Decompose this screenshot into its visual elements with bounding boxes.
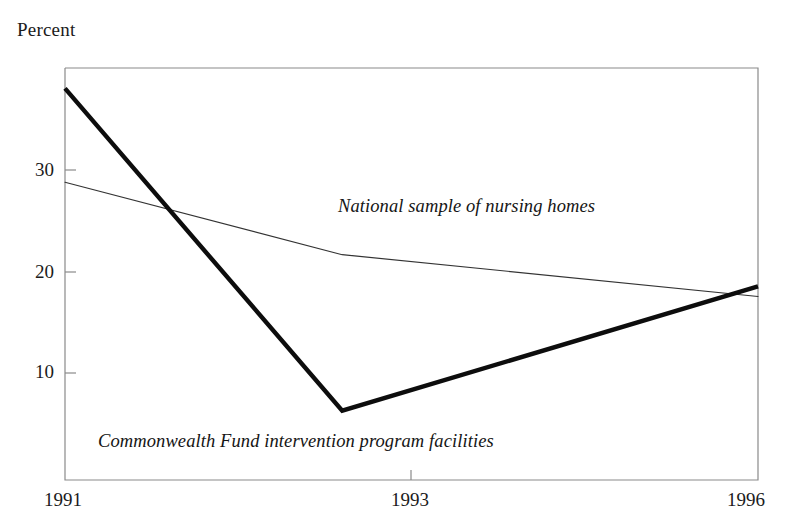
y-tick-label-30: 30 (12, 159, 54, 181)
y-tick-label-10: 10 (12, 361, 54, 383)
x-tick-label-1991: 1991 (44, 489, 82, 511)
plot-frame-box (65, 68, 758, 480)
series-line-commonwealth-fund (65, 88, 758, 410)
chart-figure: Percent 30 20 10 1991 1993 1996 National… (0, 0, 788, 522)
series-label-national-sample: National sample of nursing homes (338, 196, 595, 217)
series-label-commonwealth-fund: Commonwealth Fund intervention program f… (98, 431, 494, 452)
data-series (65, 88, 758, 410)
plot-frame (65, 68, 758, 480)
y-tick-label-20: 20 (12, 261, 54, 283)
x-tick-label-1993: 1993 (391, 489, 429, 511)
y-axis-title: Percent (17, 19, 75, 41)
x-tick-label-1996: 1996 (727, 489, 765, 511)
